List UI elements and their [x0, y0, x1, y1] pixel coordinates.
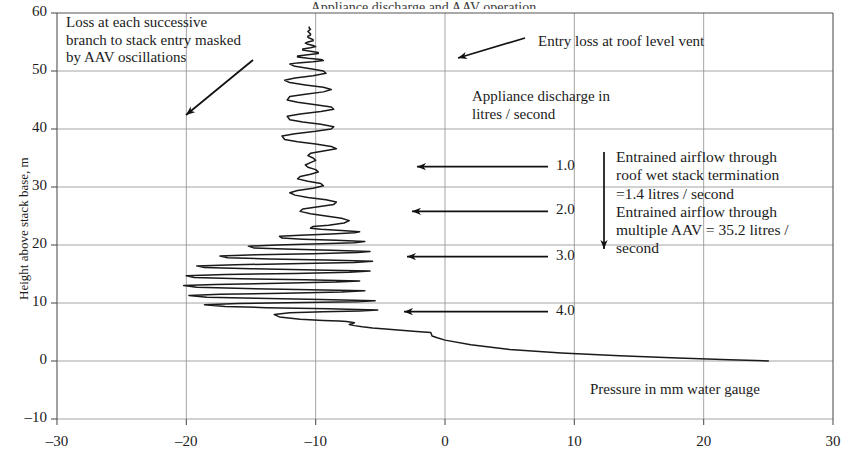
- x-tick-label: –30: [27, 433, 87, 451]
- y-tick-label: 20: [7, 235, 47, 253]
- series-label-3-0: 3.0: [556, 247, 575, 265]
- series-label-4-0: 4.0: [556, 302, 575, 320]
- y-tick-label: –10: [7, 409, 47, 427]
- x-tick-label: –20: [156, 433, 216, 451]
- annotation-entrained-airflow: Entrained airflow through roof wet stack…: [616, 148, 789, 258]
- series-label-1-0: 1.0: [556, 157, 575, 175]
- x-tick-label: –10: [286, 433, 346, 451]
- x-tick-label: 10: [544, 433, 604, 451]
- y-tick-label: 40: [7, 119, 47, 137]
- annotation-discharge-legend: Appliance discharge in litres / second: [472, 88, 610, 123]
- annotation-entry-loss: Entry loss at roof level vent: [538, 33, 704, 51]
- annotation-top-left: Loss at each successive branch to stack …: [66, 14, 241, 67]
- y-tick-label: 60: [7, 3, 47, 21]
- y-tick-label: 0: [7, 351, 47, 369]
- x-axis-caption: Pressure in mm water gauge: [590, 381, 760, 399]
- x-tick-label: 30: [803, 433, 847, 451]
- y-tick-label: 10: [7, 293, 47, 311]
- y-tick-label: 30: [7, 177, 47, 195]
- x-tick-label: 20: [674, 433, 734, 451]
- figure-canvas: Appliance discharge and AAV operation He…: [0, 0, 847, 464]
- x-tick-label: 0: [415, 433, 475, 451]
- series-label-2-0: 2.0: [556, 201, 575, 219]
- annotation-arrows: [186, 38, 604, 312]
- y-tick-label: 50: [7, 61, 47, 79]
